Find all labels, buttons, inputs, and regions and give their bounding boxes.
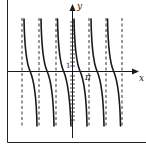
branch-2 — [41, 19, 54, 126]
branch-6 — [108, 19, 121, 126]
cotangent-graph: y x π 1 — [0, 0, 146, 145]
branch-5 — [91, 19, 104, 126]
x-axis-label: x — [139, 73, 144, 83]
branch-1 — [24, 19, 37, 126]
x-axis — [8, 69, 139, 75]
x-tick-label-pi: π — [84, 72, 92, 82]
y-tick-label-1: 1 — [66, 62, 70, 70]
y-axis-label: y — [76, 1, 83, 11]
branch-3 — [58, 19, 72, 126]
